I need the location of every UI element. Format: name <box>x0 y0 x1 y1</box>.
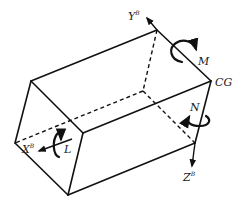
axes <box>39 18 195 166</box>
x-axis-label: XB <box>22 143 34 155</box>
solid-edges <box>15 30 211 195</box>
pitch-moment-arrow-icon <box>171 41 196 62</box>
roll-moment-label: L <box>64 144 71 155</box>
box-drawing <box>0 0 241 207</box>
z-axis-label: ZB <box>183 171 195 183</box>
y-axis-arrow <box>147 18 157 30</box>
hidden-edges <box>15 30 195 143</box>
body-axes-diagram: YB M CG N ZB XB L <box>0 0 241 207</box>
yaw-moment-label: N <box>190 102 200 113</box>
z-axis-arrow <box>192 143 195 166</box>
yaw-moment-arrow-icon <box>188 116 209 126</box>
cg-label: CG <box>215 77 232 88</box>
pitch-moment-label: M <box>198 56 209 67</box>
y-axis-label: YB <box>128 10 140 22</box>
